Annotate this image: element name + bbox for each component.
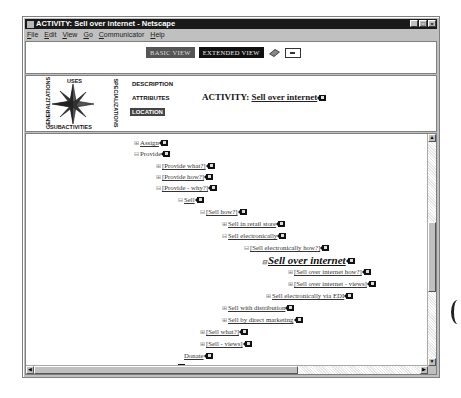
process-handbook-icon[interactable] bbox=[369, 281, 376, 287]
book-icon[interactable] bbox=[268, 48, 281, 58]
process-handbook-icon[interactable] bbox=[319, 95, 326, 101]
browser-window: ACTIVITY: Sell over internet - Netscape … bbox=[22, 16, 440, 378]
tree-node-link[interactable]: [Sell electronically how?] bbox=[250, 244, 320, 251]
tree-node: ⊞[Sell over internet how?] bbox=[288, 267, 371, 277]
scroll-right-arrow[interactable]: ▶ bbox=[420, 366, 428, 374]
tree-node-link[interactable]: Sell with distribution bbox=[228, 304, 285, 311]
expand-toggle[interactable]: ⊞ bbox=[222, 317, 227, 323]
generalizations-link[interactable]: GENERALIZATIONS bbox=[45, 77, 51, 129]
tree-node-link[interactable]: [Sell over internet how?] bbox=[294, 268, 362, 275]
process-handbook-icon[interactable] bbox=[322, 245, 329, 251]
menu-file[interactable]: File bbox=[27, 30, 38, 40]
title-bar: ACTIVITY: Sell over internet - Netscape … bbox=[25, 19, 437, 29]
process-handbook-icon[interactable] bbox=[210, 185, 217, 191]
extended-view-button[interactable]: EXTENDED VIEW bbox=[199, 47, 264, 58]
expand-toggle[interactable]: ⊞ bbox=[200, 341, 205, 347]
process-handbook-icon[interactable] bbox=[197, 197, 204, 203]
compass-navigator: USES GENERALIZATIONS SPECIALIZATIONS SUB… bbox=[34, 78, 114, 130]
process-handbook-icon[interactable] bbox=[208, 163, 215, 169]
collapse-toggle[interactable]: ⊟ bbox=[156, 185, 161, 191]
collapse-toggle[interactable]: ⊟ bbox=[262, 259, 267, 265]
tree-node-link[interactable]: [Sell what?] bbox=[206, 328, 239, 335]
process-handbook-icon[interactable] bbox=[161, 140, 168, 146]
tree-node-link[interactable]: [Sell - views] bbox=[206, 340, 243, 347]
collapse-toggle[interactable]: ⊟ bbox=[134, 151, 139, 157]
process-handbook-icon[interactable] bbox=[278, 221, 285, 227]
close-button[interactable]: × bbox=[428, 20, 436, 27]
tree-node: ⊟[Provide - why?] bbox=[156, 183, 217, 193]
window-title: ACTIVITY: Sell over internet - Netscape bbox=[36, 19, 175, 29]
compass-star-icon bbox=[52, 84, 94, 124]
nav-description[interactable]: DESCRIPTION bbox=[130, 80, 175, 88]
process-handbook-icon[interactable] bbox=[206, 353, 213, 359]
specializations-link[interactable]: SPECIALIZATIONS bbox=[113, 78, 119, 127]
menu-communicator[interactable]: Communicator bbox=[99, 30, 145, 40]
process-handbook-icon[interactable] bbox=[346, 293, 353, 299]
horizontal-scrollbar[interactable]: ◀ ▶ bbox=[26, 365, 428, 374]
tree-node: ⊞Sell by direct marketing bbox=[222, 315, 303, 325]
tree-node-link[interactable]: Donate bbox=[184, 352, 204, 359]
tree-node-link[interactable]: Sell bbox=[184, 196, 195, 203]
basic-view-button[interactable]: BASIC VIEW bbox=[146, 47, 195, 58]
tree-node-link[interactable]: [Provide what?] bbox=[162, 162, 206, 169]
tree-node-link[interactable]: Sell over internet bbox=[268, 254, 346, 266]
tree-node-link[interactable]: Assign bbox=[140, 139, 159, 146]
process-handbook-icon[interactable] bbox=[240, 209, 247, 215]
menu-go[interactable]: Go bbox=[83, 30, 92, 40]
tree-node-link[interactable]: Sell electronically via EDI bbox=[272, 292, 344, 299]
process-handbook-icon[interactable] bbox=[163, 151, 170, 157]
tree-node-link[interactable]: Sell in retail store bbox=[228, 220, 276, 227]
process-handbook-icon[interactable] bbox=[348, 258, 355, 264]
tree-node: ⊟[Sell electronically how?] bbox=[244, 243, 329, 253]
mail-icon[interactable] bbox=[285, 48, 301, 58]
process-handbook-icon[interactable] bbox=[287, 305, 294, 311]
expand-toggle[interactable]: ⊞ bbox=[222, 305, 227, 311]
expand-toggle[interactable]: ⊞ bbox=[200, 329, 205, 335]
collapse-toggle[interactable]: ⊟ bbox=[222, 233, 227, 239]
nav-location[interactable]: LOCATION bbox=[130, 108, 165, 116]
process-handbook-icon[interactable] bbox=[206, 174, 213, 180]
page-edge-bracket bbox=[451, 300, 461, 324]
process-handbook-icon[interactable] bbox=[364, 269, 371, 275]
menu-view[interactable]: View bbox=[62, 30, 77, 40]
subactivities-link[interactable]: SUBACTIVITIES bbox=[50, 124, 92, 130]
activity-name-link[interactable]: Sell over internet bbox=[251, 92, 317, 102]
nav-attributes[interactable]: ATTRIBUTES bbox=[130, 94, 175, 102]
tree-node-link[interactable]: Sell electronically bbox=[228, 232, 277, 239]
vertical-scroll-thumb[interactable] bbox=[428, 222, 436, 292]
tree-node-link[interactable]: [Provide - why?] bbox=[162, 184, 208, 191]
expand-toggle[interactable]: ⊞ bbox=[156, 163, 161, 169]
expand-toggle[interactable]: ⊞ bbox=[134, 140, 139, 146]
horizontal-scroll-thumb[interactable] bbox=[34, 366, 298, 374]
tree-node-link[interactable]: [Sell over internet - views] bbox=[294, 280, 367, 287]
process-handbook-icon[interactable] bbox=[241, 329, 248, 335]
scroll-up-arrow[interactable]: ▲ bbox=[428, 134, 436, 142]
maximize-button[interactable]: □ bbox=[419, 20, 427, 27]
tree-node: ⊟Sell bbox=[178, 195, 204, 205]
tree-node-current: ⊟Sell over internet bbox=[262, 254, 355, 268]
minimize-button[interactable]: _ bbox=[410, 20, 418, 27]
process-handbook-icon[interactable] bbox=[245, 341, 252, 347]
tree-node: ⊞Sell electronically via EDI bbox=[266, 291, 353, 301]
expand-toggle[interactable]: ⊞ bbox=[288, 269, 293, 275]
collapse-toggle[interactable]: ⊟ bbox=[200, 209, 205, 215]
menu-edit[interactable]: Edit bbox=[44, 30, 56, 40]
vertical-scrollbar[interactable]: ▲ ▼ bbox=[427, 134, 436, 366]
expand-toggle[interactable]: ⊞ bbox=[266, 293, 271, 299]
process-handbook-icon[interactable] bbox=[296, 317, 303, 323]
tree-node-link[interactable]: [Provide how?] bbox=[162, 173, 204, 180]
expand-toggle[interactable]: ⊞ bbox=[222, 221, 227, 227]
expand-toggle[interactable]: ⊞ bbox=[288, 281, 293, 287]
tree-node: ⊞Sell in retail store bbox=[222, 219, 285, 229]
expand-toggle[interactable]: ⊞ bbox=[156, 174, 161, 180]
view-toolbar-frame: BASIC VIEW EXTENDED VIEW bbox=[25, 41, 437, 74]
collapse-toggle[interactable]: ⊟ bbox=[244, 245, 249, 251]
menu-help[interactable]: Help bbox=[150, 30, 164, 40]
tree-node-link[interactable]: [Sell how?] bbox=[206, 208, 238, 215]
scroll-left-arrow[interactable]: ◀ bbox=[26, 366, 34, 374]
tree-node: ⊞Assign bbox=[134, 138, 168, 148]
scroll-down-arrow[interactable]: ▼ bbox=[428, 358, 436, 366]
process-handbook-icon[interactable] bbox=[279, 233, 286, 239]
tree-node-link[interactable]: Sell by direct marketing bbox=[228, 316, 294, 323]
collapse-toggle[interactable]: ⊟ bbox=[178, 197, 183, 203]
